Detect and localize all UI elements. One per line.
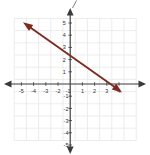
x-tick-label: -5 bbox=[19, 88, 24, 94]
y-tick-label: -1 bbox=[64, 93, 69, 99]
y-axis-up-arrow-icon bbox=[67, 8, 74, 16]
x-tick-label: -2 bbox=[56, 88, 61, 94]
x-axis-left-arrow-icon bbox=[4, 81, 12, 88]
y-tick-label: -5 bbox=[64, 142, 69, 148]
coordinate-plane-figure: -5 -4 -3 -2 -1 1 2 3 4 5 4 3 2 1 -1 -2 -… bbox=[0, 0, 150, 155]
graph-canvas: -5 -4 -3 -2 -1 1 2 3 4 5 4 3 2 1 -1 -2 -… bbox=[0, 0, 150, 155]
x-tick-label: 1 bbox=[81, 88, 84, 94]
x-tick-label: -3 bbox=[43, 88, 48, 94]
x-tick-label: 2 bbox=[93, 88, 96, 94]
x-axis-right-arrow-icon bbox=[139, 81, 147, 88]
grid bbox=[14, 18, 136, 140]
y-tick-label: 1 bbox=[63, 69, 66, 75]
y-tick-label: -2 bbox=[64, 106, 69, 112]
plot-line-upper-left-arrow-icon bbox=[23, 22, 33, 31]
x-tick-label: -4 bbox=[31, 88, 36, 94]
y-tick-label: -4 bbox=[64, 130, 69, 136]
x-tick-labels: -5 -4 -3 -2 -1 1 2 3 4 bbox=[19, 88, 120, 94]
partial-top-mark bbox=[73, 1, 77, 9]
y-tick-label: 2 bbox=[63, 57, 66, 63]
y-tick-label: 3 bbox=[63, 44, 66, 50]
plotted-line-series bbox=[23, 22, 122, 92]
y-tick-label: -3 bbox=[64, 118, 69, 124]
y-tick-label: 5 bbox=[63, 20, 66, 26]
y-tick-label: 4 bbox=[63, 32, 66, 38]
x-tick-label: 3 bbox=[105, 88, 108, 94]
